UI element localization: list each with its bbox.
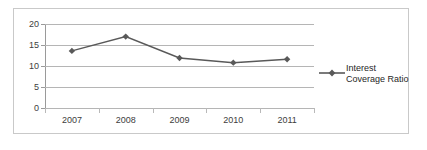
x-axis-tick-label: 2010: [223, 116, 243, 125]
gridline: [45, 108, 314, 109]
x-axis-tick-label: 2007: [62, 116, 82, 125]
x-axis-tick: [153, 108, 154, 113]
legend-label-line1: Interest: [346, 63, 422, 74]
x-axis-tick: [260, 108, 261, 113]
x-axis-tick-label: 2011: [277, 116, 296, 125]
x-axis-tick: [206, 108, 207, 113]
y-axis-tick-label: 10: [29, 62, 39, 71]
x-axis-tick: [45, 108, 46, 113]
legend-label-interest-coverage-ratio: Interest Coverage Ratio: [346, 63, 422, 85]
y-axis-tick-label: 15: [29, 41, 39, 50]
series-data-point: [69, 48, 75, 54]
chart-frame: 05101520 20072008200920102011 Interest C…: [13, 8, 409, 134]
x-axis-tick-label: 2009: [169, 116, 189, 125]
series-interest-coverage-ratio: [45, 24, 314, 108]
legend-label-line2: Coverage Ratio: [346, 74, 422, 85]
y-axis-tick-label: 0: [34, 104, 39, 113]
legend-marker-icon: [319, 69, 345, 77]
x-axis-tick: [99, 108, 100, 113]
series-data-point: [123, 33, 129, 39]
x-axis-tick: [314, 108, 315, 113]
series-data-point: [176, 55, 182, 61]
series-data-point: [230, 59, 236, 65]
y-axis-tick-label: 20: [29, 20, 39, 29]
y-axis-tick-label: 5: [34, 83, 39, 92]
chart-legend: Interest Coverage Ratio: [319, 63, 422, 85]
plot-area: 05101520 20072008200920102011: [45, 24, 314, 108]
x-axis-tick-label: 2008: [116, 116, 136, 125]
series-data-point: [284, 56, 290, 62]
